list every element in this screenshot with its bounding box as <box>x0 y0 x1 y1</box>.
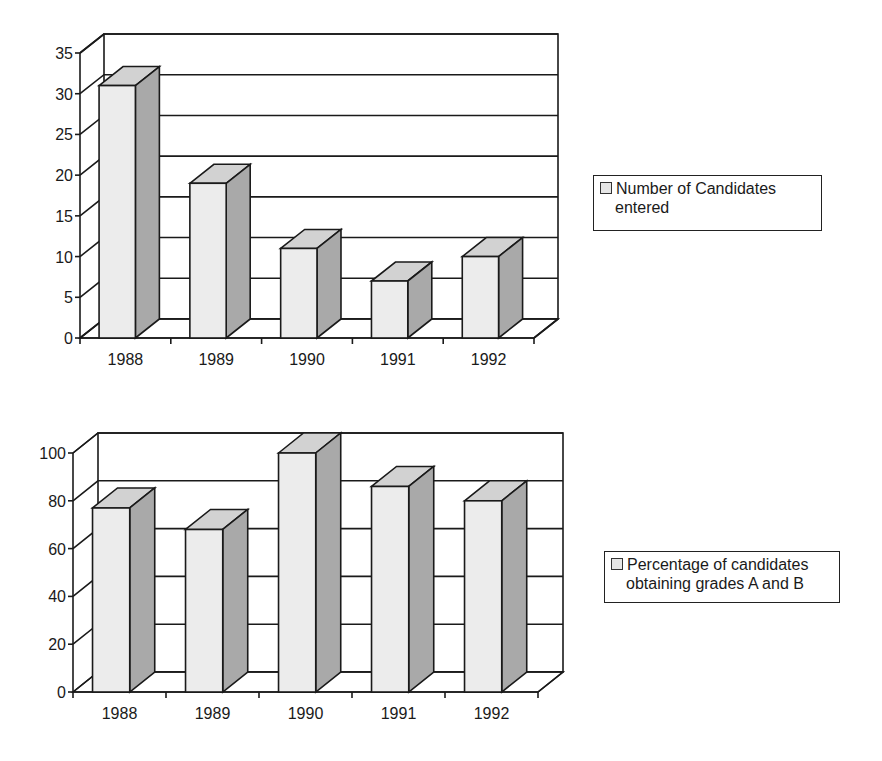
bar-1988 <box>93 488 155 692</box>
y-tick-label: 0 <box>57 684 66 701</box>
bar-side-face <box>502 481 527 692</box>
bar-side-face <box>316 433 341 692</box>
x-tick-label: 1992 <box>474 705 510 722</box>
bar-1989 <box>186 509 248 692</box>
bar-front-face <box>93 508 130 692</box>
bar-front-face <box>372 486 409 692</box>
x-tick-label: 1990 <box>288 705 324 722</box>
legend-label-line1: Number of Candidates <box>616 180 776 197</box>
bar-front-face <box>279 453 316 692</box>
y-tick-label: 60 <box>48 541 66 558</box>
y-tick-label: 80 <box>48 493 66 510</box>
legend-candidates-entered: Number of Candidates entered <box>593 175 822 231</box>
y-tick-label: 40 <box>48 588 66 605</box>
chart-percentage-grades-a-b: 02040608010019881989199019911992 <box>0 0 882 761</box>
legend-label-line1: Percentage of candidates <box>627 556 808 573</box>
y-tick-label: 20 <box>48 636 66 653</box>
legend-label-line2: entered <box>600 198 815 217</box>
bar-front-face <box>186 529 223 692</box>
bar-front-face <box>465 501 502 692</box>
bar-side-face <box>130 488 155 692</box>
bar-side-face <box>409 466 434 692</box>
bar-1992 <box>465 481 527 692</box>
legend-label-line2: obtaining grades A and B <box>611 574 833 593</box>
bar-1990 <box>279 433 341 692</box>
y-tick-label: 100 <box>39 445 66 462</box>
bar-1991 <box>372 466 434 692</box>
legend-percentage-grades: Percentage of candidates obtaining grade… <box>604 551 840 603</box>
legend-swatch-icon <box>611 558 623 570</box>
bar-side-face <box>223 509 248 692</box>
x-tick-label: 1991 <box>381 705 417 722</box>
x-tick-label: 1988 <box>102 705 138 722</box>
x-tick-label: 1989 <box>195 705 231 722</box>
legend-swatch-icon <box>600 182 612 194</box>
